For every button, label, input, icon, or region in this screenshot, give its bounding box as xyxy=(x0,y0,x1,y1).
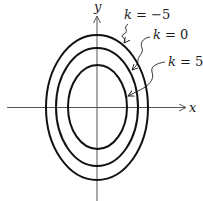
x-axis-label: x xyxy=(189,100,197,115)
y-axis-label: y xyxy=(93,0,102,14)
leader-k-0 xyxy=(132,37,150,70)
label-k-5: k = 5 xyxy=(168,54,203,69)
leader-k-neg5 xyxy=(122,24,128,43)
label-k-neg5: k = −5 xyxy=(124,7,170,22)
level-curves-diagram: x y k = −5 k = 0 k = 5 xyxy=(0,0,203,201)
label-k-0: k = 0 xyxy=(153,27,188,42)
